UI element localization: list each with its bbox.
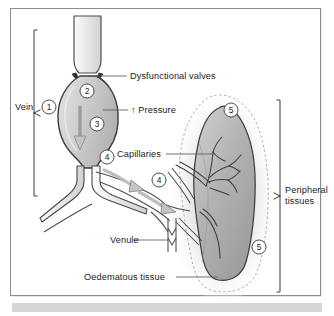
vein-bracket bbox=[34, 30, 40, 196]
flow-arrow-upper bbox=[104, 170, 144, 192]
footer-bar bbox=[12, 303, 322, 312]
venous-insufficiency-figure: 1 2 3 4 4 5 5 bbox=[0, 0, 334, 316]
callout-3-label: 3 bbox=[95, 119, 100, 129]
callout-5-upper: 5 bbox=[224, 103, 238, 117]
callout-3: 3 bbox=[90, 117, 104, 131]
callout-2-label: 2 bbox=[85, 86, 90, 96]
callout-4-lower-label: 4 bbox=[157, 175, 162, 185]
callout-4-lower: 4 bbox=[152, 173, 166, 187]
label-venule: Venule bbox=[110, 235, 139, 246]
callout-4-upper-label: 4 bbox=[105, 152, 110, 162]
vein-upper-segment bbox=[74, 16, 101, 73]
label-dysfunctional-valves: Dysfunctional valves bbox=[130, 71, 216, 82]
label-vein: Vein bbox=[15, 102, 33, 113]
peripheral-tissues-line1: Peripheral bbox=[285, 185, 328, 195]
label-pressure: ↑ Pressure bbox=[131, 105, 176, 116]
label-capillaries: Capillaries bbox=[117, 149, 161, 160]
label-peripheral-tissues: Peripheral tissues bbox=[285, 185, 331, 207]
callout-2: 2 bbox=[80, 84, 94, 98]
callout-5-upper-label: 5 bbox=[229, 105, 234, 115]
peripheral-tissues-line2: tissues bbox=[285, 196, 314, 206]
vein-lower-trunk bbox=[40, 166, 84, 222]
callout-4-upper: 4 bbox=[100, 150, 114, 164]
callout-5-lower: 5 bbox=[252, 240, 266, 254]
callout-1: 1 bbox=[42, 100, 56, 114]
diagram-canvas: 1 2 3 4 4 5 5 bbox=[0, 0, 334, 316]
label-oedematous-tissue: Oedematous tissue bbox=[84, 272, 165, 283]
callout-1-label: 1 bbox=[47, 102, 52, 112]
callout-5-lower-label: 5 bbox=[257, 242, 262, 252]
